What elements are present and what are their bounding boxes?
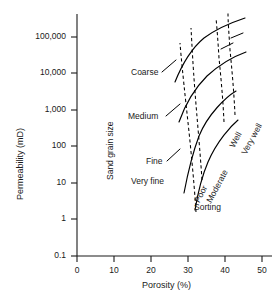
curve-well: [216, 18, 224, 122]
y-tick-label-10: 10: [18, 178, 66, 187]
y-tick-label-100: 100: [18, 141, 66, 150]
curve-medium: [179, 52, 246, 122]
x-tick-label-0: 0: [63, 266, 91, 275]
y-tick-label-10000: 10,000: [18, 68, 66, 77]
curve-label-very-fine: Very fine: [131, 177, 164, 186]
x-tick-label-20: 20: [137, 266, 165, 275]
y-tick-label-1000: 1,000: [18, 105, 66, 114]
leader-fine: [167, 149, 180, 161]
leader-medium: [166, 104, 180, 116]
curve-label-medium: Medium: [128, 112, 158, 121]
curve-very-well: [228, 13, 235, 115]
leader-very-well: [231, 33, 243, 38]
group-label-sand-grain-size: Sand grain size: [106, 121, 115, 180]
curve-label-fine: Fine: [146, 157, 163, 166]
x-axis-title: Porosity (%): [142, 281, 191, 290]
chart-figure: 100,000 10,000 1,000 100 10 1 0.1 0 10 2…: [0, 0, 276, 296]
y-tick-label-0.1: 0.1: [18, 251, 66, 260]
x-tick-label-30: 30: [174, 266, 202, 275]
y-tick-label-1: 1: [18, 214, 66, 223]
leader-coarse: [162, 60, 176, 72]
x-axis-ticks: [77, 256, 262, 262]
curve-coarse: [175, 18, 245, 82]
group-label-sorting: Sorting: [194, 203, 221, 212]
y-axis-title: Permeability (mD): [16, 128, 25, 200]
x-tick-label-50: 50: [248, 266, 276, 275]
leader-well: [221, 43, 233, 49]
y-axis-ticks: [71, 37, 77, 256]
x-tick-label-40: 40: [211, 266, 239, 275]
y-tick-label-100000: 100,000: [18, 32, 66, 41]
curve-label-coarse: Coarse: [131, 68, 158, 77]
x-tick-label-10: 10: [100, 266, 128, 275]
